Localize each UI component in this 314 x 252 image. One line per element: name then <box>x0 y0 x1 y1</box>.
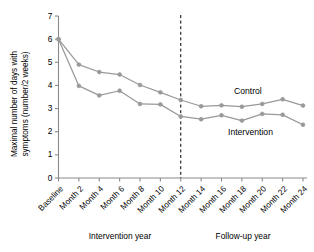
data-point-control <box>240 105 244 109</box>
data-point-control <box>301 104 305 108</box>
data-point-control <box>260 102 264 106</box>
data-point-intervention <box>220 113 224 117</box>
chart-figure: Maximal number of days with symptoms (nu… <box>0 0 314 252</box>
data-point-control <box>199 104 203 108</box>
data-point-intervention <box>57 37 61 41</box>
data-point-control <box>77 63 81 67</box>
data-point-intervention <box>158 102 162 106</box>
data-point-control <box>97 70 101 74</box>
data-point-intervention <box>281 113 285 117</box>
data-point-intervention <box>77 84 81 88</box>
data-point-control <box>138 83 142 87</box>
data-point-intervention <box>118 89 122 93</box>
data-point-intervention <box>97 93 101 97</box>
data-point-control <box>220 103 224 107</box>
data-point-control <box>118 73 122 77</box>
data-point-intervention <box>199 117 203 121</box>
data-point-intervention <box>179 114 183 118</box>
data-point-intervention <box>301 123 305 127</box>
data-point-control <box>281 97 285 101</box>
data-point-intervention <box>138 102 142 106</box>
data-point-control <box>179 98 183 102</box>
data-point-control <box>158 90 162 94</box>
period-label: Intervention year <box>60 231 180 241</box>
data-point-intervention <box>260 112 264 116</box>
series-label-intervention: Intervention <box>228 127 273 137</box>
data-point-intervention <box>240 119 244 123</box>
period-label: Follow-up year <box>188 231 298 241</box>
series-label-control: Control <box>234 86 262 96</box>
